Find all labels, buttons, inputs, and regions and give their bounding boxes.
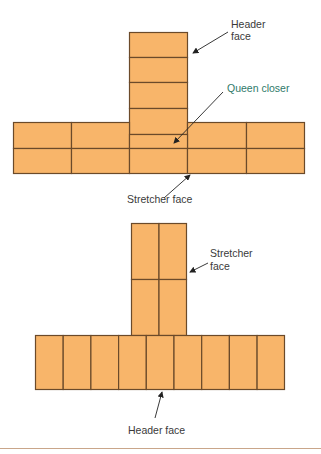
label-header-face-line2: face <box>231 30 251 42</box>
arrow-bottom-stretcher-face <box>190 263 208 272</box>
bottom-stretcher-column <box>132 224 187 336</box>
label-stretcher-face-line1: Stretcher <box>210 247 253 259</box>
label-stretcher-face: Stretcher face <box>127 193 193 205</box>
label-stretcher-face-line2: face <box>210 260 230 272</box>
bottom-header-row <box>36 336 285 390</box>
label-header-face: Header face <box>128 424 185 436</box>
bottom-figure: Stretcher face Header face <box>36 224 285 437</box>
arrow-header-face <box>193 32 228 53</box>
brick-bond-diagram: Header face Queen closer Stretcher face … <box>0 0 321 454</box>
top-header-column <box>130 33 188 135</box>
queen-closer-brick <box>130 135 188 149</box>
arrow-bottom-header-face <box>155 392 162 418</box>
label-queen-closer: Queen closer <box>227 82 290 94</box>
label-header-face-line1: Header <box>231 18 266 30</box>
top-figure: Header face Queen closer Stretcher face <box>14 18 305 205</box>
